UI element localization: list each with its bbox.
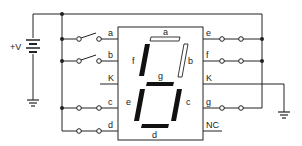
pin-label-a-left: a <box>108 28 113 38</box>
pin-label-e-right: e <box>206 28 211 38</box>
segment-g-on <box>146 82 174 86</box>
switch-f[interactable] <box>203 59 262 64</box>
segment-label-g: g <box>158 71 163 81</box>
switch-e[interactable] <box>203 37 262 42</box>
pin-label-b-left: b <box>108 50 113 60</box>
supply-label: +V <box>10 42 21 52</box>
segment-label-d: d <box>152 130 157 140</box>
pin-label-g-right: g <box>206 97 211 107</box>
pin-label-k-left: K <box>108 73 114 83</box>
pin-label-nc: NC <box>206 120 219 130</box>
circuit-diagram: +V a b K c <box>0 0 302 146</box>
pin-label-k-right: K <box>206 73 212 83</box>
battery-icon <box>26 40 40 52</box>
segment-label-c: c <box>186 97 191 107</box>
pin-label-c-left: c <box>108 97 113 107</box>
segment-a-off <box>150 37 180 41</box>
segment-label-a: a <box>163 27 168 37</box>
ground-icon-left <box>27 100 39 106</box>
junction-dot <box>60 12 64 16</box>
switch-g[interactable] <box>203 106 262 111</box>
ground-icon-right <box>278 112 290 118</box>
segment-d-on <box>141 124 169 128</box>
segment-label-e: e <box>126 97 131 107</box>
pin-label-f-right: f <box>206 50 209 60</box>
segment-label-b: b <box>188 56 193 66</box>
pin-label-d-left: d <box>108 120 113 130</box>
